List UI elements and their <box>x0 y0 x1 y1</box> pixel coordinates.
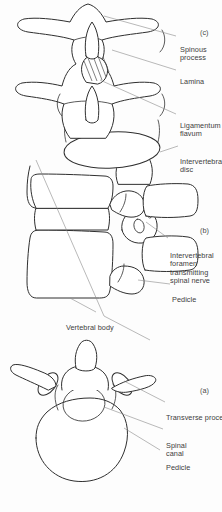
facet-detail-3 <box>160 30 165 52</box>
rotated-figure-canvas: Pedicle Spinal canal Transverse process … <box>0 0 222 512</box>
label-spinal-canal: Spinal canal <box>166 442 187 459</box>
label-transverse-process: Transverse process <box>166 414 222 422</box>
label-intervertebral-foramen: Intervertebral foramen transmitting spin… <box>170 252 214 286</box>
panel-marker-c: (c) <box>200 28 209 37</box>
panel-b: Vertebral body Pedicle Intervertebral fo… <box>0 177 222 342</box>
panel-a: Pedicle Spinal canal Transverse process … <box>0 338 222 508</box>
leader-lamina <box>112 50 176 70</box>
label-intervertebral-disc: Intervertebral disc <box>180 158 222 175</box>
intervertebral-disc-b <box>35 208 110 230</box>
facet-detail-2 <box>160 94 165 116</box>
leader-pedicle-a <box>124 428 160 450</box>
articular-block-lower-b <box>143 184 198 218</box>
label-ligamentum-flavum: Ligamentum flavum <box>180 122 221 139</box>
spinous-process-a <box>75 340 97 371</box>
panel-marker-a: (a) <box>200 386 209 395</box>
vertebral-body-superior <box>27 230 113 298</box>
panel-c-drawing <box>0 0 222 182</box>
label-pedicle-b: Pedicle <box>172 296 196 304</box>
disc-bottom-edge <box>158 120 160 142</box>
label-spinous-process: Spinous process <box>180 46 207 63</box>
figure-root: Pedicle Spinal canal Transverse process … <box>0 0 222 512</box>
panel-c: Intervertebral disc Ligamentum flavum La… <box>0 0 222 182</box>
transverse-process-upper <box>11 364 56 390</box>
panel-marker-b: (b) <box>200 226 209 235</box>
panel-a-drawing <box>0 338 222 508</box>
label-pedicle-a: Pedicle <box>166 464 190 472</box>
leader-vertebral-body <box>70 298 96 312</box>
label-vertebral-body: Vertebral body <box>66 324 114 332</box>
leader-intervertebral-disc <box>160 146 178 152</box>
pedicle-lower-b <box>110 191 145 217</box>
label-lamina: Lamina <box>180 78 204 86</box>
